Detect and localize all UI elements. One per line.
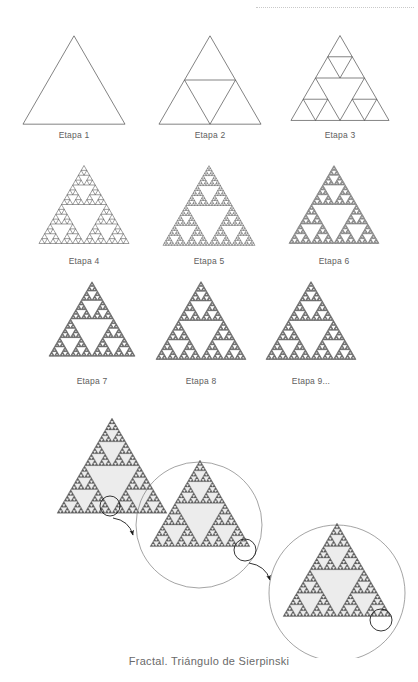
stage-cell-8 bbox=[155, 280, 247, 361]
stage-fractal-9 bbox=[265, 280, 357, 361]
stage-fractal-3 bbox=[290, 34, 390, 122]
stage-fractal-4 bbox=[38, 164, 130, 245]
fractal-outline-path bbox=[266, 282, 356, 360]
stage-label-1: Etapa 1 bbox=[22, 130, 126, 140]
stage-label-4: Etapa 4 bbox=[38, 256, 130, 266]
stage-cell-6 bbox=[288, 164, 380, 245]
stage-label-3: Etapa 3 bbox=[290, 130, 390, 140]
fractal-outline-path bbox=[163, 166, 255, 246]
fractal-outline-path bbox=[39, 166, 129, 244]
stage-label-6: Etapa 6 bbox=[288, 256, 380, 266]
stage-label-2: Etapa 2 bbox=[158, 130, 262, 140]
stage-cell-5 bbox=[162, 164, 256, 247]
zoom-fractal-3 bbox=[283, 523, 391, 617]
top-dotted-rule bbox=[256, 7, 414, 9]
stage-cell-9 bbox=[265, 280, 357, 361]
stage-label-7: Etapa 7 bbox=[48, 376, 136, 386]
zoom-arrow bbox=[113, 518, 133, 535]
fractal-outline-path bbox=[23, 36, 125, 124]
stage-cell-3 bbox=[290, 34, 390, 122]
stage-fractal-7 bbox=[48, 280, 136, 358]
zoom-panel-3 bbox=[269, 523, 405, 658]
fractal-outline-path bbox=[159, 36, 261, 124]
stage-cell-4 bbox=[38, 164, 130, 245]
stage-fractal-5 bbox=[162, 164, 256, 247]
zoom-fractal-1 bbox=[57, 418, 167, 513]
stage-fractal-1 bbox=[22, 34, 126, 126]
fractal-outline-path bbox=[49, 282, 135, 357]
stage-label-8: Etapa 8 bbox=[155, 376, 247, 386]
stage-cell-1 bbox=[22, 34, 126, 126]
stage-cell-2 bbox=[158, 34, 262, 126]
zoom-sequence-diagram bbox=[0, 408, 418, 658]
figure-root: Etapa 1Etapa 2Etapa 3Etapa 4Etapa 5Etapa… bbox=[0, 0, 418, 682]
fractal-outline-path bbox=[291, 36, 389, 121]
fractal-outline-path bbox=[289, 166, 379, 244]
zoom-sequence-svg bbox=[0, 408, 418, 658]
zoom-panel-1 bbox=[57, 418, 167, 535]
stage-cell-7 bbox=[48, 280, 136, 358]
zoom-panel-2 bbox=[136, 460, 270, 588]
stage-label-9: Etapa 9... bbox=[265, 376, 357, 386]
stage-label-5: Etapa 5 bbox=[162, 256, 256, 266]
zoom-arrow bbox=[249, 563, 270, 580]
stage-fractal-8 bbox=[155, 280, 247, 361]
stage-fractal-6 bbox=[288, 164, 380, 245]
stage-fractal-2 bbox=[158, 34, 262, 126]
fractal-outline-path bbox=[156, 282, 246, 360]
figure-caption: Fractal. Triángulo de Sierpinski bbox=[0, 655, 418, 667]
